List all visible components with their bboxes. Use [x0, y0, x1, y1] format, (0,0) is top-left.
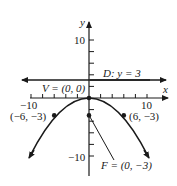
focus-point	[87, 113, 92, 118]
y-axis-label: y	[79, 16, 85, 28]
x-axis-label: x	[162, 83, 168, 95]
vertex-label: V = (0, 0)	[42, 82, 86, 95]
focus-leader	[90, 117, 114, 160]
left-point	[52, 113, 57, 118]
vertex-point	[87, 96, 92, 101]
y-bottom-label: −10	[68, 151, 86, 163]
right-point-label: (6, −3)	[129, 110, 159, 123]
directrix-label: D: y = 3	[102, 67, 141, 79]
focus-label: F = (0, −3)	[100, 159, 152, 172]
y-top-label: 10	[74, 34, 86, 46]
right-point	[122, 113, 127, 118]
left-point-label: (−6, −3)	[10, 110, 47, 123]
parabola-graph: y x 10 −10 −10 10 D: y = 3 V = (0, 0) (−…	[0, 0, 177, 186]
